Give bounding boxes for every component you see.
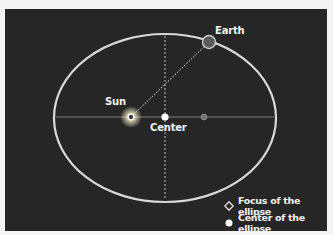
legend-label-center: Center of the ellipse [238, 212, 333, 234]
center-label: Center [150, 122, 187, 133]
diamond-focus-icon [224, 201, 234, 211]
sun-label: Sun [105, 96, 126, 107]
second-focus-icon [201, 114, 207, 120]
earth-icon [203, 36, 216, 49]
center-dot-icon [161, 113, 168, 120]
legend-item-center: Center of the ellipse [224, 214, 333, 231]
sun-earth-line [131, 43, 208, 117]
sun-focus-icon [128, 114, 134, 120]
dot-center-icon [224, 218, 234, 228]
earth-label: Earth [215, 25, 244, 36]
legend: Focus of the ellipse Center of the ellip… [224, 197, 333, 231]
